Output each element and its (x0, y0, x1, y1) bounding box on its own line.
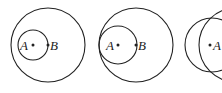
point-a (117, 44, 120, 47)
label-a: A (19, 38, 28, 53)
label-a: A (212, 38, 221, 53)
point-a (32, 44, 35, 47)
label-a: A (105, 38, 114, 53)
label-b: B (50, 38, 58, 53)
point-a (209, 44, 212, 47)
figure-3: A (185, 8, 222, 82)
figure-1: A B (11, 8, 85, 82)
figure-2: A B (99, 8, 173, 82)
label-b: B (138, 38, 146, 53)
circles-diagram: A B A B A (0, 0, 222, 93)
